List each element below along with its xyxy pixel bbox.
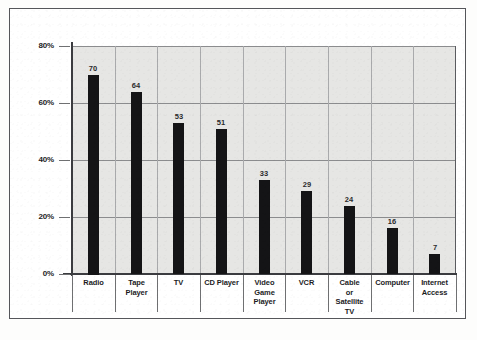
x-axis-category-label: Computer [372,278,413,288]
gridline-vertical [243,46,244,274]
bar-value-label: 7 [420,243,450,252]
bar [259,180,270,274]
gridline-vertical [413,46,414,274]
bar-value-label: 51 [206,118,236,127]
bar-value-label: 24 [334,195,364,204]
category-separator [328,275,329,312]
y-axis-tick-label: 60% [18,98,54,107]
y-axis-tick-mark [59,46,70,47]
chart-page: 0%20%40%60%80% 70645351332924167 RadioTa… [0,0,477,340]
x-axis-category-label: TapePlayer [116,278,157,297]
category-separator [456,275,457,312]
bar [387,228,398,274]
bar-value-label: 64 [121,81,151,90]
y-axis-tick-label: 80% [18,41,54,50]
category-separator [371,275,372,312]
x-axis-category-label: VCR [286,278,327,288]
bar-value-label: 29 [292,180,322,189]
bar [344,206,355,274]
bar [216,129,227,274]
bar [173,123,184,274]
x-axis-category-label: TV [158,278,199,288]
bar-value-label: 33 [249,169,279,178]
gridline-vertical [371,46,372,274]
gridline-vertical [200,46,201,274]
category-label-band: RadioTapePlayerTVCD PlayerVideoGamePlaye… [72,275,456,312]
y-axis-tick-label: 0% [18,269,54,278]
gridline-vertical [115,46,116,274]
y-axis-tick-label: 40% [18,155,54,164]
bar [88,75,99,275]
category-separator [285,275,286,312]
y-axis-tick-label: 20% [18,212,54,221]
x-axis-category-label: VideoGamePlayer [244,278,285,307]
y-axis-tick-mark [59,274,70,275]
gridline-horizontal [72,160,455,161]
category-separator [200,275,201,312]
bar [301,191,312,274]
bar-value-label: 53 [164,112,194,121]
y-axis-tick-mark [59,103,70,104]
gridline-vertical [285,46,286,274]
gridline-horizontal [72,46,455,47]
gridline-horizontal [72,103,455,104]
chart-frame: 0%20%40%60%80% 70645351332924167 RadioTa… [9,8,466,319]
x-axis-category-label: Radio [73,278,114,288]
x-axis-category-label: CableorSatelliteTV [329,278,370,316]
gridline-vertical [328,46,329,274]
category-separator [72,275,73,312]
x-axis-category-label: InternetAccess [414,278,455,297]
category-separator [115,275,116,312]
category-separator [413,275,414,312]
bar-value-label: 70 [78,64,108,73]
bar [429,254,440,274]
x-axis-category-label: CD Player [201,278,242,288]
category-separator [157,275,158,312]
bar-value-label: 16 [377,217,407,226]
bar [131,92,142,274]
y-axis-tick-mark [59,160,70,161]
gridline-vertical [157,46,158,274]
y-axis-line [71,42,73,276]
category-separator [243,275,244,312]
y-axis-tick-mark [59,217,70,218]
